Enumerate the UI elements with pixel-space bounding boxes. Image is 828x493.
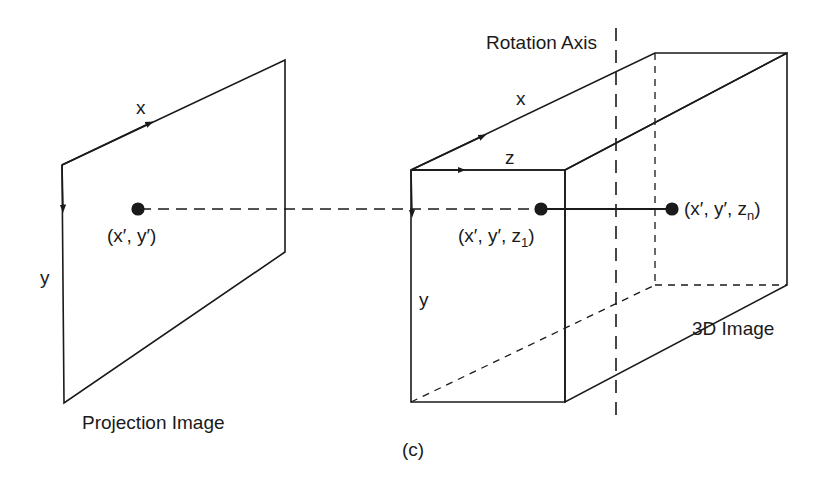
projection-point-marker	[131, 202, 144, 215]
far-voxel-point-label: (x′, y′, zn)	[684, 199, 761, 222]
axis-arrow-x-left	[62, 123, 150, 165]
axis-label-x-left: x	[136, 98, 146, 117]
three-d-image-caption: 3D Image	[692, 319, 774, 338]
rotation-axis-label: Rotation Axis	[486, 33, 597, 52]
near-voxel-point-marker	[534, 202, 547, 215]
near-voxel-point-label: (x′, y′, z1)	[458, 226, 535, 249]
axis-arrow-x-right	[411, 136, 483, 170]
axis-label-y-right: y	[419, 290, 429, 309]
axis-arrow-y-right	[411, 170, 412, 214]
far-voxel-suffix: )	[754, 198, 760, 219]
far-voxel-point-marker	[665, 202, 678, 215]
axis-arrow-y-left	[62, 165, 63, 209]
axis-label-x-right: x	[516, 89, 526, 108]
near-voxel-prefix: (x′, y′, z	[458, 225, 521, 246]
near-voxel-suffix: )	[528, 225, 534, 246]
axis-label-z-right: z	[505, 148, 515, 167]
projection-plane-outline	[62, 60, 285, 403]
far-voxel-prefix: (x′, y′, z	[684, 198, 747, 219]
projection-point-label: (x′, y′)	[107, 226, 156, 245]
axis-label-y-left: y	[40, 268, 50, 287]
figure-container: x y (x′, y′) Projection Image Rotation A…	[0, 0, 828, 493]
projection-image-caption: Projection Image	[82, 413, 225, 432]
figure-subcaption: (c)	[402, 440, 424, 459]
